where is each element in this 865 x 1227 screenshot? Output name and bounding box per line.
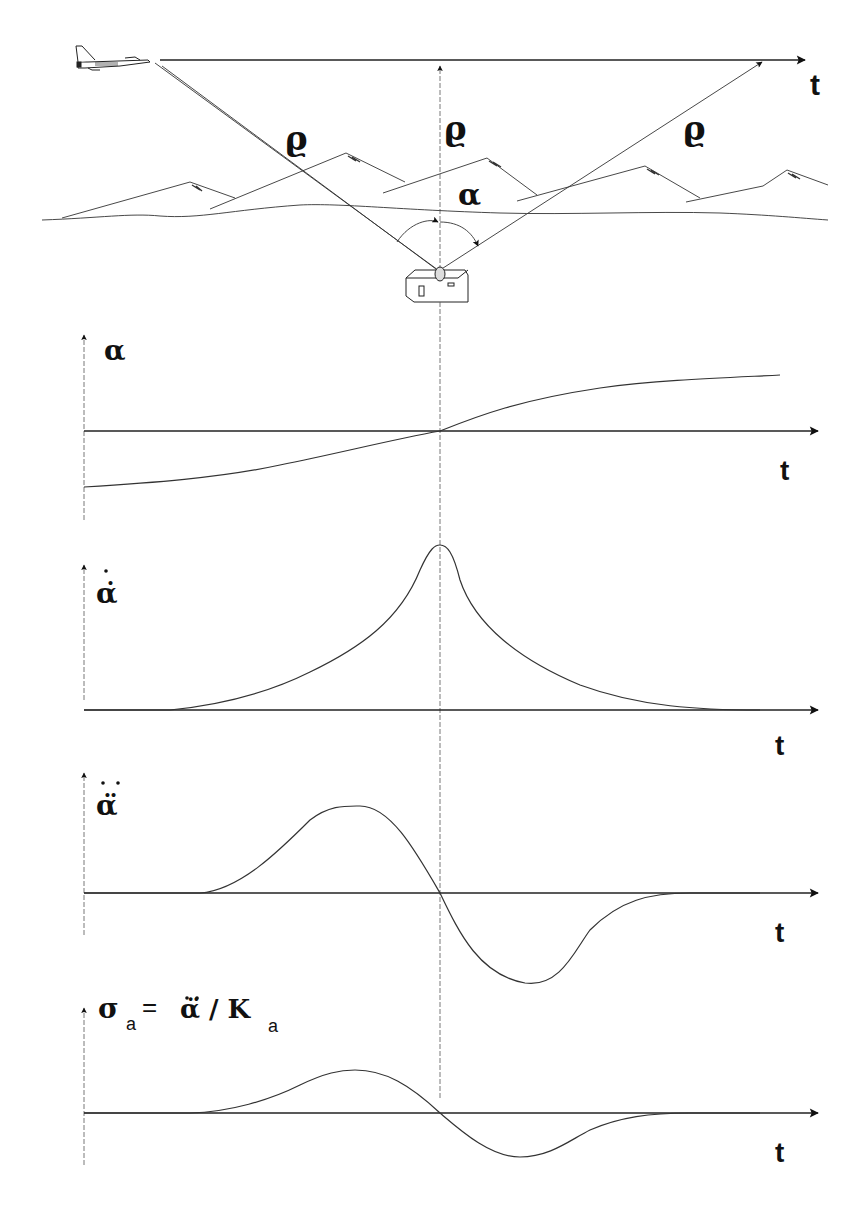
svg-text:a: a — [268, 1016, 279, 1036]
x-axis-label: t — [780, 455, 789, 486]
range-label-right: ϱ — [683, 108, 706, 148]
y-axis-label: α̇ — [96, 577, 118, 610]
mountains — [42, 153, 828, 220]
radar-tracking-diagram: t ϱ ϱ ϱ α — [0, 0, 865, 1227]
svg-text:σ: σ — [98, 992, 119, 1025]
alpha-ddot-curve — [84, 806, 760, 983]
svg-text:=: = — [142, 992, 157, 1022]
y-axis-label: α̈ — [96, 789, 118, 822]
dot-accent — [104, 569, 108, 573]
angle-label: α — [458, 177, 481, 212]
plot-sigma-a: σ a = α̈ / K a t — [84, 992, 818, 1168]
dot-accent-1 — [101, 781, 105, 785]
scene-time-label: t — [810, 68, 820, 101]
range-label-left: ϱ — [285, 118, 308, 158]
scene: t ϱ ϱ ϱ α — [42, 46, 828, 1100]
svg-text:a: a — [126, 1014, 137, 1034]
angle-arc-left — [397, 221, 438, 242]
svg-text:α̈ / K: α̈ / K — [180, 994, 252, 1024]
x-axis-label: t — [775, 917, 784, 948]
x-axis-label: t — [775, 730, 784, 761]
plot-alpha: α t — [84, 334, 818, 520]
y-axis-label: α — [104, 334, 126, 367]
range-label-center: ϱ — [444, 108, 467, 148]
plot-alpha-ddot: α̈ t — [84, 773, 818, 983]
y-axis-label: σ a = α̈ / K a — [98, 992, 279, 1036]
aircraft-icon — [76, 46, 150, 70]
slant-range-right — [440, 62, 762, 270]
angle-arc-right — [440, 222, 478, 246]
slant-range-2 — [162, 66, 440, 272]
radar-station-icon — [406, 267, 468, 302]
dot-accent-2 — [116, 781, 120, 785]
plot-alpha-dot: α̇ t — [84, 545, 818, 761]
alpha-dot-curve — [84, 545, 760, 710]
x-axis-label: t — [775, 1137, 784, 1168]
